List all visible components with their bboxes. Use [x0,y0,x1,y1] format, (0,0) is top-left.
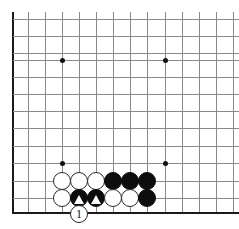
triangle-marker-icon [74,195,84,204]
stone-black [121,172,139,190]
go-board-diagram: 1 [0,0,239,229]
stone-white-move-1: 1 [70,205,88,223]
stone-white [121,189,139,207]
stone-white [104,189,122,207]
stone-black [138,189,156,207]
move-number-label: 1 [76,208,82,220]
triangle-marker-icon [91,195,101,204]
stone-white [53,172,71,190]
stone-white [70,172,88,190]
stone-black-triangle-marked [87,189,105,207]
stone-white [53,189,71,207]
board-stones: 1 [0,0,239,229]
stone-black [104,172,122,190]
stone-white [87,172,105,190]
stone-black [138,172,156,190]
